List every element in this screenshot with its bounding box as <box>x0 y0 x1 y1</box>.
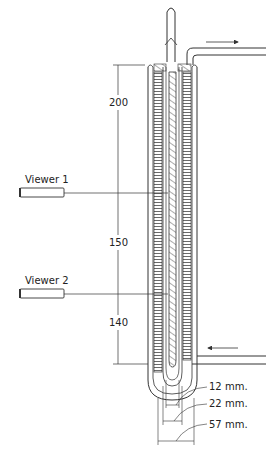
dim-140: 140 <box>109 317 128 328</box>
viewer-1-label: Viewer 1 <box>25 174 69 185</box>
viewer-2-label: Viewer 2 <box>25 275 69 286</box>
dim-22mm: 22 mm. <box>209 398 248 409</box>
viewer-1-icon <box>20 188 64 197</box>
height-dimension: 200 150 140 <box>109 65 148 364</box>
viewer-1: Viewer 1 <box>20 174 168 197</box>
dim-150: 150 <box>109 237 128 248</box>
dim-200: 200 <box>109 97 128 108</box>
outer-tube <box>148 64 197 400</box>
outlet-pipe <box>187 42 266 65</box>
top-stem <box>165 8 177 62</box>
viewer-2-icon <box>20 289 64 298</box>
dim-12mm: 12 mm. <box>209 381 248 392</box>
apparatus-diagram: 200 150 140 Viewer 1 Viewer 2 12 mm. 22 … <box>0 0 266 455</box>
hatched-rod <box>169 72 176 367</box>
dim-57mm: 57 mm. <box>209 419 248 430</box>
viewer-2: Viewer 2 <box>20 275 168 298</box>
inlet-pipe <box>192 348 266 364</box>
width-dimensions: 12 mm. 22 mm. 57 mm. <box>158 380 248 445</box>
